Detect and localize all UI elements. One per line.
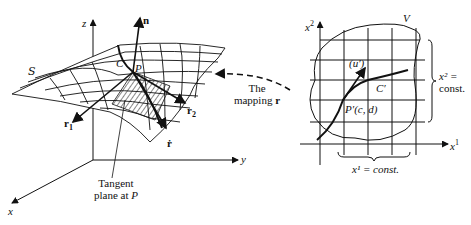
normal-label: n	[143, 14, 149, 26]
region-v	[310, 24, 420, 140]
r2-label: r2	[187, 104, 196, 121]
u-prime-label: (u′)	[349, 57, 364, 69]
brace-x1	[338, 152, 410, 161]
rdot-label: ṙ	[167, 137, 172, 149]
curve-c-prime-label: C′	[376, 82, 386, 94]
point-p-prime-label: P′(c, d)	[345, 103, 377, 115]
x-axis-label: x	[8, 205, 13, 217]
region-v-label: V	[403, 12, 410, 24]
u-prime-vector	[343, 68, 365, 100]
x1-axis-label: x1	[450, 137, 459, 152]
diagram-canvas	[0, 0, 471, 225]
point-p-label: P	[135, 62, 142, 74]
surface-label: S	[28, 66, 36, 78]
y-axis-label: y	[241, 153, 246, 165]
r1-label: r1	[64, 117, 73, 134]
brace-x2	[428, 40, 436, 122]
x2-axis-label: x2	[305, 18, 314, 33]
grid	[310, 28, 425, 155]
x2-const-label: x² = const.	[439, 70, 465, 94]
x1-const-label: x¹ = const.	[352, 163, 399, 175]
curve-label: C	[116, 57, 123, 69]
tangent-plane-label: Tangent plane at P	[86, 177, 146, 201]
z-axis-label: z	[82, 17, 86, 29]
mapping-label: The mapping r	[227, 82, 287, 106]
